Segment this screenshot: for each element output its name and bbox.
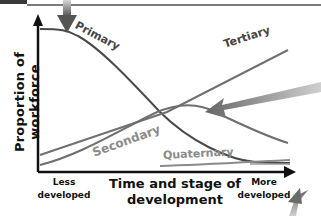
less-line1: Less <box>36 176 92 189</box>
y-axis-title: Proportion of workforce <box>12 32 32 172</box>
x-tick-less-developed: Less developed <box>36 176 92 202</box>
x-axis-title-line1: Time and stage of <box>100 176 250 192</box>
x-axis-title: Time and stage of development <box>100 176 250 208</box>
x-axis-title-line2: development <box>100 192 250 208</box>
more-line2: developed <box>236 189 292 202</box>
more-line1: More <box>236 176 292 189</box>
less-line2: developed <box>36 189 92 202</box>
x-tick-more-developed: More developed <box>236 176 292 202</box>
left-arrow-icon <box>205 82 321 118</box>
y-axis-arrowhead-icon <box>33 14 43 26</box>
chart-stage: Proportion of workforce Primary Tertiary… <box>0 0 321 216</box>
